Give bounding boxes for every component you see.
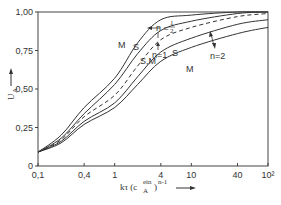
label-n-two: n=2 — [209, 31, 225, 61]
svg-text:A: A — [143, 187, 148, 195]
svg-text:A: A — [11, 88, 19, 93]
curve-label-s-top: S — [133, 42, 139, 52]
curves — [38, 12, 268, 152]
x-tick-label: 0,4 — [78, 170, 91, 180]
y-tick-label: 0,75 — [15, 46, 33, 56]
x-tick-label: 10 — [186, 170, 196, 180]
curve-label-m-n2: M — [186, 64, 194, 74]
svg-text:U: U — [6, 93, 16, 100]
svg-text:): ) — [154, 182, 157, 192]
x-axis-label: kτ (c A ein ) n-1 — [120, 178, 168, 195]
svg-text:n-1: n-1 — [158, 178, 168, 186]
x-axis-arrow-icon — [176, 186, 196, 190]
y-axis-arrow-icon — [9, 68, 13, 86]
line-chart: 00,250,500,751,00 0,10,414104010² U A kτ… — [0, 0, 281, 205]
y-tick-label: 0,25 — [15, 123, 33, 133]
svg-text:1: 1 — [170, 19, 174, 27]
x-tick-label: 40 — [232, 170, 242, 180]
y-axis-label: U A — [6, 88, 19, 100]
svg-text:n =: n = — [156, 23, 169, 33]
x-tick-label: 1 — [112, 170, 117, 180]
label-n-half: n = 1 2 — [147, 19, 175, 38]
svg-text:n=2: n=2 — [210, 51, 225, 61]
x-tick-label: 0,1 — [32, 170, 45, 180]
curve-label-sm: S,M — [140, 56, 156, 66]
curve-label-m-top: M — [118, 40, 126, 50]
curve-n-2-m — [38, 27, 268, 152]
curve-label-s-n2: S — [172, 48, 178, 58]
curve-n-2-s — [38, 20, 268, 152]
svg-text:2: 2 — [170, 27, 174, 35]
svg-text:ein: ein — [143, 178, 152, 186]
svg-text:kτ (c: kτ (c — [120, 182, 137, 192]
x-tick-label: 10² — [261, 170, 274, 180]
y-tick-label: 1,00 — [15, 7, 33, 17]
